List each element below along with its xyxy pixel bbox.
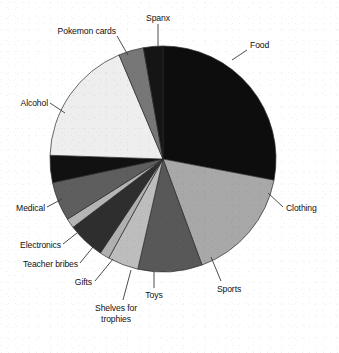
slice-label-toys: Toys [145, 290, 162, 300]
slice-label-food: Food [250, 40, 270, 50]
leader-line-food [232, 50, 247, 60]
leader-line-electronics [63, 233, 77, 244]
leader-line-gifts [95, 259, 113, 281]
slice-label-alcohol: Alcohol [21, 98, 49, 108]
slice-label-clothing: Clothing [286, 203, 317, 213]
slice-label-teacher-bribes: Teacher bribes [23, 259, 78, 269]
slice-label-electronics: Electronics [20, 240, 61, 250]
slice-label-shelves-line2: trophies [101, 314, 131, 324]
pie-chart-page: Food Clothing Sports Toys Shelves for tr… [0, 0, 339, 353]
leader-line-shelves [123, 270, 131, 300]
leader-line-teacher-bribes [80, 247, 93, 263]
slice-label-shelves-line1: Shelves for [95, 303, 137, 313]
slice-label-sports: Sports [217, 284, 241, 294]
slice-label-gifts: Gifts [75, 277, 92, 287]
slice-label-pokemon-cards: Pokemon cards [58, 26, 116, 36]
leader-line-sports [211, 257, 221, 281]
slice-label-spanx: Spanx [146, 13, 171, 23]
leader-line-clothing [268, 193, 283, 207]
slice-label-medical: Medical [16, 203, 45, 213]
leader-line-pokemon [117, 36, 128, 55]
pie-slices-group [50, 46, 276, 272]
pie-slice-food[interactable] [163, 46, 276, 180]
pie-chart: Food Clothing Sports Toys Shelves for tr… [0, 0, 339, 353]
